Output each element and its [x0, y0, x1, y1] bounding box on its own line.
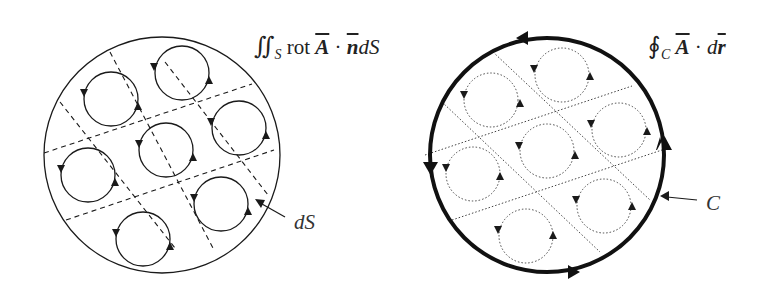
surface-differential: dS [358, 35, 379, 59]
line-integral-formula: ∮C A · dr [648, 32, 726, 63]
dot-operator: · [695, 35, 702, 59]
loop-icon [520, 124, 574, 178]
right-panel-line-integral [423, 31, 697, 279]
dotted-subdivision-grid [425, 52, 662, 252]
surface-subscript: S [274, 47, 281, 62]
dot-operator: · [335, 35, 342, 59]
loop-icon [116, 212, 170, 266]
c-label: C [706, 191, 720, 216]
left-panel-surface-integral [44, 37, 285, 273]
loop-icon [139, 123, 193, 177]
loop-icon [155, 46, 209, 100]
contour-integral-symbol: ∮ [648, 33, 661, 59]
double-integral-symbol: ∬ [254, 33, 274, 59]
loop-icon [535, 48, 589, 102]
ds-label: dS [294, 210, 315, 235]
loop-icon [61, 148, 115, 202]
loop-icon [446, 147, 500, 201]
loop-icon [84, 72, 138, 126]
curve-subscript: C [661, 47, 670, 62]
vector-a: A [676, 35, 690, 59]
circulation-loops-right [446, 48, 646, 263]
surface-integral-formula: ∬S rot A · ndS [254, 32, 379, 63]
line-differential-d: d [707, 35, 718, 59]
loop-icon [592, 103, 646, 157]
rot-operator: rot [287, 35, 310, 59]
loop-icon [577, 179, 631, 233]
loop-icon [212, 101, 266, 155]
loop-icon [194, 177, 248, 231]
loop-icon [464, 73, 518, 127]
normal-vector-n: n [347, 35, 359, 59]
boundary-arrowheads [423, 31, 672, 279]
position-vector-r: r [718, 35, 726, 59]
vector-a: A [315, 35, 329, 59]
loop-icon [499, 209, 553, 263]
c-pointer [660, 191, 697, 201]
